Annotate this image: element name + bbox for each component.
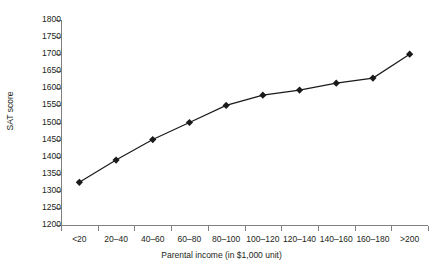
data-point-marker <box>149 136 156 143</box>
data-point-marker <box>76 179 83 186</box>
series-line-sat-score <box>79 54 409 182</box>
data-point-marker <box>406 51 413 58</box>
data-point-marker <box>186 119 193 126</box>
data-point-marker <box>259 92 266 99</box>
data-point-marker <box>223 102 230 109</box>
data-series-layer <box>0 0 443 271</box>
data-point-marker <box>369 74 376 81</box>
sat-score-line-chart: 1800175017001650160015501500145014001350… <box>0 0 443 271</box>
data-point-marker <box>333 80 340 87</box>
data-point-marker <box>112 156 119 163</box>
data-point-marker <box>296 86 303 93</box>
